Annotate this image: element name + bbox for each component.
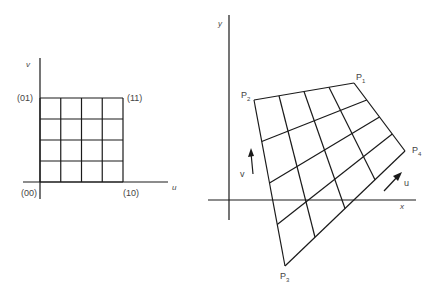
left-diagram <box>23 58 168 199</box>
corner-label-10: (10) <box>123 189 139 198</box>
quad-patch-grid <box>254 83 405 266</box>
point-label-p3: P3 <box>280 272 289 283</box>
v-arrowhead-icon <box>248 148 254 157</box>
unit-square-grid <box>40 98 123 182</box>
diagram-stage: v u (01) (11) (00) (10) y x P1 P2 P3 P4 … <box>0 0 441 294</box>
v-direction-label: v <box>240 170 245 179</box>
corner-label-11: (11) <box>127 94 142 103</box>
point-label-p1: P1 <box>356 73 365 84</box>
u-direction-label: u <box>404 179 409 188</box>
u-axis-label: u <box>172 184 176 192</box>
point-label-p2: P2 <box>241 91 250 102</box>
corner-label-00: (00) <box>21 189 37 198</box>
x-axis-label: x <box>400 203 404 211</box>
v-axis-label: v <box>26 61 30 69</box>
diagram-canvas <box>0 0 441 294</box>
right-diagram <box>208 15 416 266</box>
corner-label-01: (01) <box>17 94 33 103</box>
y-axis-label: y <box>218 20 222 28</box>
point-label-p4: P4 <box>412 146 421 157</box>
